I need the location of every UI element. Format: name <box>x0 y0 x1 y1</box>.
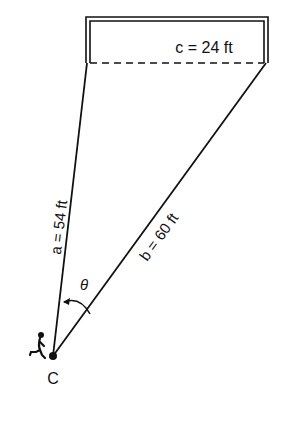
side-c-label: c = 24 ft <box>175 39 233 56</box>
vertex-c-label: C <box>47 370 59 387</box>
side-b-label: b = 60 ft <box>136 209 182 264</box>
side-b-line <box>53 63 266 356</box>
side-a-label: a = 54 ft <box>47 198 71 255</box>
vertex-c-dot <box>49 352 57 360</box>
angle-theta-label: θ <box>80 276 88 293</box>
triangle-diagram: c = 24 ft a = 54 ft b = 60 ft θ C <box>0 0 296 423</box>
running-person-icon <box>30 332 45 358</box>
arc-arrowhead-icon <box>63 298 70 305</box>
